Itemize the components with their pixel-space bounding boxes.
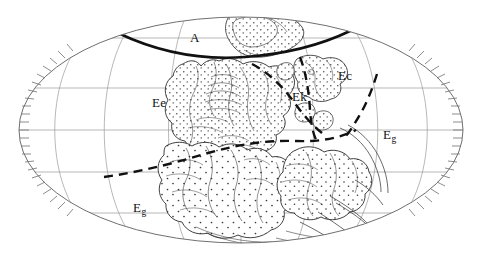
province-label-eg-right-sub: g [391,134,396,144]
landmass-laurasia [165,59,294,156]
map-canvas [0,0,482,259]
province-label-ek-text: Ek [292,89,307,104]
paleogeographic-map-figure: A Ee Ec Ek Eg Eg [0,0,482,259]
province-label-eg-bottom-text: E [133,200,141,215]
province-label-eg-bottom: Eg [133,201,146,215]
province-label-eg-right: Eg [383,128,396,142]
province-label-a: A [190,31,200,44]
province-label-eg-right-text: E [383,127,391,142]
province-label-a-text: A [190,30,200,45]
province-label-ec: Ec [338,69,352,82]
province-label-ek: Ek [292,90,307,103]
province-label-eg-bottom-sub: g [141,207,146,217]
province-label-ee-text: Ee [152,95,166,110]
province-label-ec-text: Ec [338,68,352,83]
province-label-ee: Ee [152,96,166,109]
